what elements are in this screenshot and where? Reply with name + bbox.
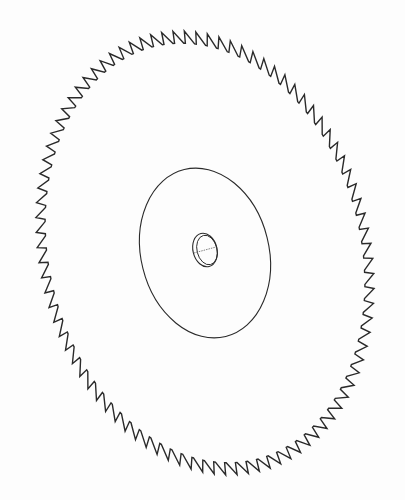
bore-centerline xyxy=(194,247,216,253)
saw-blade-figure xyxy=(0,0,405,500)
blade-teeth-outline xyxy=(36,31,374,475)
saw-blade-drawing xyxy=(0,0,405,500)
hub-ring xyxy=(122,154,288,352)
